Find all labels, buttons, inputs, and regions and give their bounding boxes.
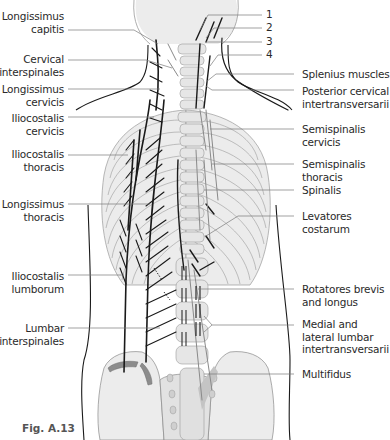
label-line: cervicis: [12, 125, 64, 138]
label-line: Splenius muscles: [302, 68, 390, 81]
label-line: thoracis: [302, 171, 365, 184]
label-line: and longus: [302, 296, 384, 309]
label-semispinalis-thoracis: Semispinalis thoracis: [302, 158, 365, 183]
label-line: capitis: [2, 23, 64, 36]
label-line: Cervical: [0, 53, 64, 66]
label-iliocostalis-cervicis: Iliocostalis cervicis: [12, 112, 64, 137]
label-line: Semispinalis: [302, 123, 365, 136]
label-line: Longissimus: [2, 198, 64, 211]
label-line: intertransversarii: [302, 343, 389, 356]
label-line: intertransversarii: [302, 98, 389, 111]
label-line: interspinales: [0, 335, 64, 348]
label-number-2: 2: [266, 21, 273, 33]
label-longissimus-thoracis: Longissimus thoracis: [2, 198, 64, 223]
label-number-3: 3: [266, 35, 273, 47]
label-line: Iliocostalis: [12, 148, 64, 161]
label-medial-lateral-lumbar-intertransversarii: Medial and lateral lumbar intertransvers…: [302, 318, 389, 356]
label-line: Iliocostalis: [12, 112, 64, 125]
label-lumbar-interspinales: Lumbar interspinales: [0, 322, 64, 347]
label-line: interspinales: [0, 66, 64, 79]
label-posterior-cervical-intertransversarii: Posterior cervical intertransversarii: [302, 85, 389, 110]
label-semispinalis-cervicis: Semispinalis cervicis: [302, 123, 365, 148]
label-iliocostalis-thoracis: Iliocostalis thoracis: [12, 148, 64, 173]
label-levatores-costarum: Levatores costarum: [302, 210, 352, 235]
label-line: Semispinalis: [302, 158, 365, 171]
label-line: thoracis: [2, 211, 64, 224]
label-line: Iliocostalis: [12, 270, 65, 283]
label-line: Rotatores brevis: [302, 283, 384, 296]
head-outline: [134, 0, 239, 44]
label-spinalis: Spinalis: [302, 184, 341, 197]
label-line: thoracis: [12, 161, 64, 174]
label-splenius-muscles: Splenius muscles: [302, 68, 390, 81]
label-line: Multifidus: [302, 368, 351, 381]
label-line: Levatores: [302, 210, 352, 223]
label-longissimus-capitis: Longissimus capitis: [2, 10, 64, 35]
label-rotatores-brevis-longus: Rotatores brevis and longus: [302, 283, 384, 308]
figure-caption: Fig. A.13: [22, 422, 75, 434]
label-line: lateral lumbar: [302, 331, 389, 344]
label-iliocostalis-lumborum: Iliocostalis lumborum: [12, 270, 65, 295]
label-line: cervicis: [302, 136, 365, 149]
label-number-1: 1: [266, 8, 273, 20]
label-multifidus: Multifidus: [302, 368, 351, 381]
label-number-4: 4: [266, 48, 273, 60]
label-line: lumborum: [12, 283, 65, 296]
label-line: Lumbar: [0, 322, 64, 335]
label-line: Medial and: [302, 318, 389, 331]
label-line: costarum: [302, 223, 352, 236]
label-longissimus-cervicis: Longissimus cervicis: [2, 83, 64, 108]
label-line: cervicis: [2, 96, 64, 109]
label-line: Spinalis: [302, 184, 341, 197]
label-line: Posterior cervical: [302, 85, 389, 98]
label-line: Longissimus: [2, 83, 64, 96]
label-line: Longissimus: [2, 10, 64, 23]
label-cervical-interspinales: Cervical interspinales: [0, 53, 64, 78]
